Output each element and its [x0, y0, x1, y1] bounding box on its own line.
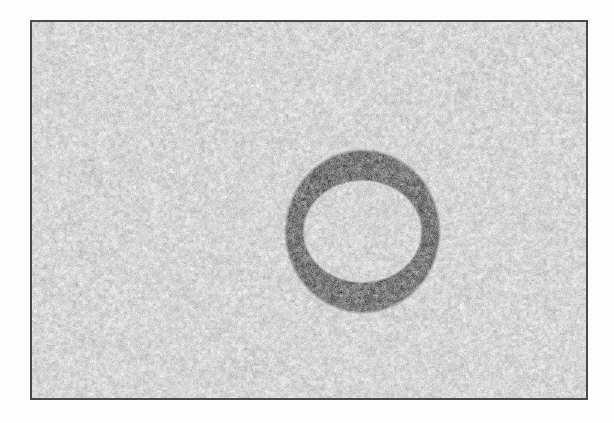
image-plate-frame — [30, 20, 588, 400]
figure-canvas: Noisy grayscale image containing a singl… — [0, 0, 614, 423]
background-noise-texture — [32, 22, 586, 398]
